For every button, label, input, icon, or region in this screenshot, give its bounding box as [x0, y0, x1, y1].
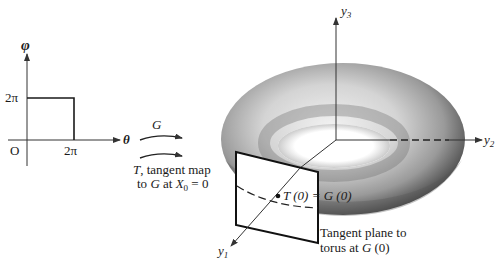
x-tick-2pi: 2π — [64, 144, 77, 158]
tangent-point-label: T (0) = G (0) — [283, 189, 351, 203]
tangent-point — [276, 194, 281, 199]
y1-sub: 1 — [224, 250, 229, 260]
y3-label: y3 — [341, 4, 351, 18]
t-desc: , tangent map — [140, 162, 210, 177]
phi-axis-label: φ — [21, 38, 30, 52]
plane-caption-g: G — [362, 240, 371, 255]
y2-label: y2 — [484, 133, 494, 147]
t-line2-x: X — [176, 176, 184, 191]
t-line2-mid: at — [160, 176, 176, 191]
t-map-label-line1: T, tangent map — [133, 163, 211, 177]
plane-caption-line2: torus at G (0) — [320, 241, 390, 255]
t-line2-pre: to — [137, 176, 150, 191]
y-tick-2pi: 2π — [5, 91, 18, 105]
diagram-canvas — [0, 0, 504, 265]
g-map-label: G — [152, 118, 161, 132]
plane-caption-line1: Tangent plane to — [320, 226, 406, 240]
y3-sub: 3 — [347, 10, 352, 20]
theta-axis-label: θ — [123, 133, 130, 147]
origin-label: O — [10, 144, 19, 158]
t-line2-g: G — [150, 176, 159, 191]
t-map-label-line2: to G at X0 = 0 — [137, 177, 208, 191]
y1-label: y1 — [218, 244, 228, 258]
t-map-arrow — [140, 154, 182, 158]
plane-caption-pre: torus at — [320, 240, 362, 255]
g-map-arrow — [140, 136, 182, 140]
domain-rectangle — [27, 98, 74, 140]
t-line2-post: = 0 — [188, 176, 208, 191]
y2-sub: 2 — [490, 139, 495, 149]
plane-caption-post: (0) — [371, 240, 389, 255]
